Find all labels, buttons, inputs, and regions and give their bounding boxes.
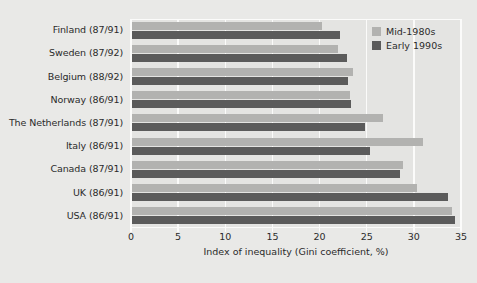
y-axis-label: Italy (86/91) xyxy=(66,140,123,151)
y-axis-label: USA (86/91) xyxy=(67,210,123,221)
y-axis-label: Sweden (87/92) xyxy=(49,47,123,58)
bar-early-1990s xyxy=(131,100,351,108)
bar-group xyxy=(131,158,461,181)
y-axis-label: UK (86/91) xyxy=(73,187,123,198)
legend-swatch-icon xyxy=(372,27,381,36)
bar-mid-1980s xyxy=(131,22,322,30)
x-tick-label: 0 xyxy=(128,231,134,242)
bar-early-1990s xyxy=(131,31,340,39)
gini-inequality-bar-chart: Finland (87/91)Sweden (87/92)Belgium (88… xyxy=(0,0,477,283)
y-axis-label: Finland (87/91) xyxy=(53,24,123,35)
bar-group xyxy=(131,65,461,88)
bar-early-1990s xyxy=(131,170,400,178)
bar-group xyxy=(131,205,461,228)
bar-early-1990s xyxy=(131,123,365,131)
bar-early-1990s xyxy=(131,147,370,155)
bar-mid-1980s xyxy=(131,184,417,192)
bar-early-1990s xyxy=(131,77,348,85)
legend-swatch-icon xyxy=(372,41,381,50)
bar-mid-1980s xyxy=(131,45,338,53)
bar-group xyxy=(131,89,461,112)
bar-mid-1980s xyxy=(131,68,353,76)
legend-item: Early 1990s xyxy=(372,39,442,52)
bar-mid-1980s xyxy=(131,114,383,122)
bar-group xyxy=(131,135,461,158)
legend: Mid-1980sEarly 1990s xyxy=(372,25,442,53)
bar-early-1990s xyxy=(131,193,448,201)
legend-label: Early 1990s xyxy=(386,40,442,51)
y-axis-label: Belgium (88/92) xyxy=(48,71,123,82)
x-axis-ticks: 05101520253035 xyxy=(131,228,461,242)
bar-group xyxy=(131,112,461,135)
x-tick-label: 25 xyxy=(361,231,373,242)
x-tick-label: 30 xyxy=(408,231,420,242)
bar-group xyxy=(131,182,461,205)
bar-mid-1980s xyxy=(131,138,423,146)
bar-mid-1980s xyxy=(131,161,403,169)
x-axis-title: Index of inequality (Gini coefficient, %… xyxy=(131,246,461,257)
bar-mid-1980s xyxy=(131,91,350,99)
x-tick-label: 15 xyxy=(266,231,278,242)
bar-early-1990s xyxy=(131,54,347,62)
bar-mid-1980s xyxy=(131,207,452,215)
bar-early-1990s xyxy=(131,216,455,224)
legend-item: Mid-1980s xyxy=(372,25,442,38)
y-axis-label: Norway (86/91) xyxy=(51,94,123,105)
x-tick-label: 5 xyxy=(175,231,181,242)
y-axis-label: The Netherlands (87/91) xyxy=(9,117,123,128)
legend-label: Mid-1980s xyxy=(386,26,435,37)
x-tick-label: 35 xyxy=(455,231,467,242)
x-tick-label: 10 xyxy=(219,231,231,242)
y-axis-label: Canada (87/91) xyxy=(50,163,123,174)
x-tick-label: 20 xyxy=(314,231,326,242)
y-axis-category-labels: Finland (87/91)Sweden (87/92)Belgium (88… xyxy=(0,19,127,228)
